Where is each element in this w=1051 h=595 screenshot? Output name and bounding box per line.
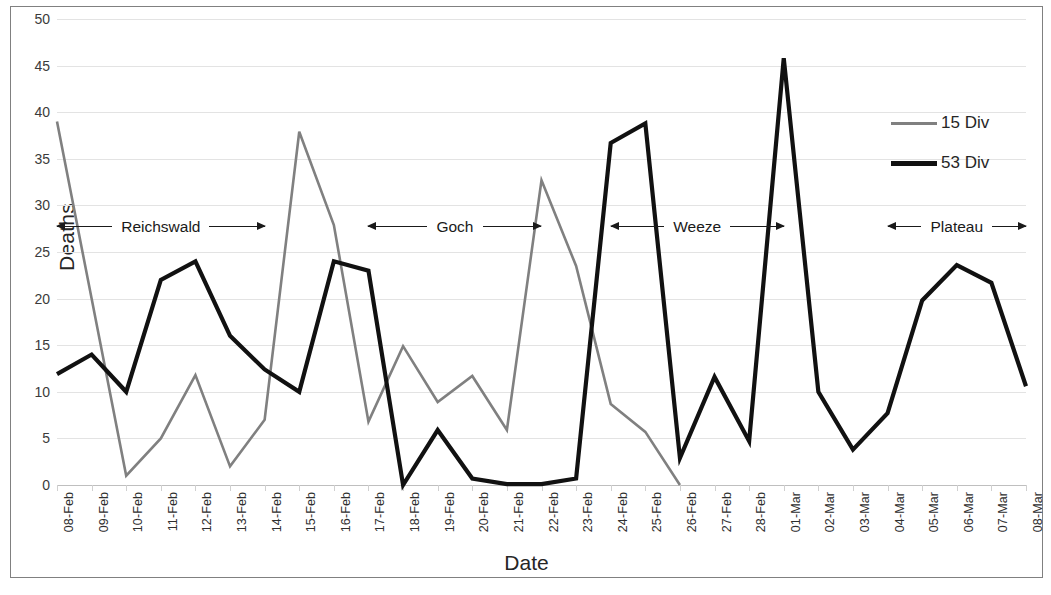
legend-entry-15-div[interactable]: 15 Div <box>891 103 1021 143</box>
x-tick <box>922 485 923 491</box>
x-tick-label: 19-Feb <box>443 492 457 532</box>
legend-label: 53 Div <box>941 153 989 173</box>
x-tick <box>299 485 300 491</box>
chart-inner: Deaths Date 05101520253035404550 08-Feb0… <box>11 7 1042 577</box>
x-tick-label: 01-Mar <box>789 492 803 532</box>
y-tick-label: 15 <box>34 337 50 353</box>
y-tick-label: 45 <box>34 58 50 74</box>
x-tick <box>853 485 854 491</box>
chart-legend: 15 Div53 Div <box>891 103 1021 183</box>
series-line-53-div <box>57 58 1026 485</box>
x-tick <box>991 485 992 491</box>
x-tick-label: 08-Feb <box>62 492 76 532</box>
x-tick-label: 18-Feb <box>408 492 422 532</box>
y-tick-label: 10 <box>34 384 50 400</box>
x-tick-label: 13-Feb <box>235 492 249 532</box>
x-tick <box>749 485 750 491</box>
x-tick-label: 11-Feb <box>166 492 180 531</box>
x-tick-label: 24-Feb <box>616 492 630 532</box>
x-tick-label: 14-Feb <box>270 492 284 532</box>
x-tick <box>92 485 93 491</box>
x-tick <box>715 485 716 491</box>
x-tick <box>230 485 231 491</box>
x-tick-label: 08-Mar <box>1031 492 1045 532</box>
x-tick-label: 03-Mar <box>858 492 872 532</box>
y-tick-label: 25 <box>34 244 50 260</box>
x-tick <box>1026 485 1027 491</box>
x-tick-label: 06-Mar <box>962 492 976 532</box>
plot-area: 05101520253035404550 08-Feb09-Feb10-Feb1… <box>57 19 1026 485</box>
y-tick-label: 20 <box>34 291 50 307</box>
x-tick <box>472 485 473 491</box>
x-tick-label: 20-Feb <box>477 492 491 532</box>
x-tick <box>888 485 889 491</box>
chart-page: Deaths Date 05101520253035404550 08-Feb0… <box>0 0 1051 595</box>
x-tick <box>611 485 612 491</box>
x-tick-label: 27-Feb <box>720 492 734 532</box>
x-tick <box>334 485 335 491</box>
x-tick-label: 12-Feb <box>200 492 214 532</box>
x-tick <box>126 485 127 491</box>
legend-swatch <box>891 161 937 166</box>
x-tick-label: 15-Feb <box>304 492 318 532</box>
y-tick-label: 30 <box>34 197 50 213</box>
x-tick-label: 28-Feb <box>754 492 768 532</box>
x-tick-label: 17-Feb <box>373 492 387 532</box>
legend-label: 15 Div <box>941 113 989 133</box>
x-axis-title: Date <box>11 551 1042 575</box>
x-tick-label: 25-Feb <box>650 492 664 532</box>
x-tick <box>645 485 646 491</box>
x-tick-label: 21-Feb <box>512 492 526 532</box>
y-tick-label: 35 <box>34 151 50 167</box>
y-tick-label: 50 <box>34 11 50 27</box>
chart-frame: Deaths Date 05101520253035404550 08-Feb0… <box>10 6 1043 578</box>
x-tick <box>818 485 819 491</box>
x-tick <box>680 485 681 491</box>
x-tick <box>195 485 196 491</box>
x-tick-label: 10-Feb <box>131 492 145 532</box>
y-tick-label: 0 <box>42 477 50 493</box>
x-tick-label: 07-Mar <box>996 492 1010 532</box>
series-line-15-div <box>57 122 680 485</box>
legend-entry-53-div[interactable]: 53 Div <box>891 143 1021 183</box>
x-tick-label: 04-Mar <box>893 492 907 532</box>
x-tick-label: 23-Feb <box>581 492 595 532</box>
legend-swatch <box>891 122 937 125</box>
x-tick <box>784 485 785 491</box>
x-tick-label: 02-Mar <box>823 492 837 532</box>
x-tick-label: 09-Feb <box>97 492 111 532</box>
y-tick-label: 40 <box>34 104 50 120</box>
x-tick <box>438 485 439 491</box>
x-tick-label: 22-Feb <box>547 492 561 532</box>
x-tick <box>161 485 162 491</box>
x-tick <box>57 485 58 491</box>
series-lines <box>57 19 1026 485</box>
x-tick <box>576 485 577 491</box>
x-tick-label: 05-Mar <box>927 492 941 532</box>
y-tick-label: 5 <box>42 430 50 446</box>
x-tick <box>368 485 369 491</box>
x-tick-label: 26-Feb <box>685 492 699 532</box>
x-tick <box>265 485 266 491</box>
x-tick-label: 16-Feb <box>339 492 353 532</box>
x-tick <box>957 485 958 491</box>
